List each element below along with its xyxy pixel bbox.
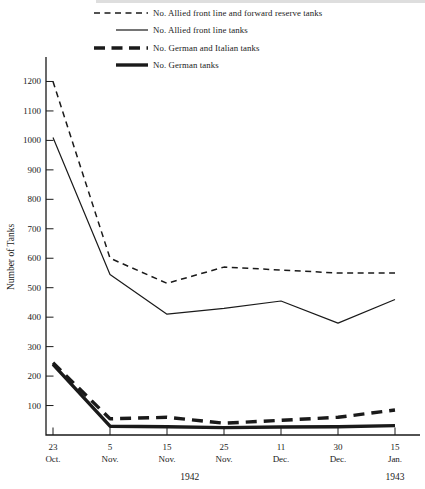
x-tick-month: Nov. — [215, 454, 232, 464]
x-tick-month: Nov. — [101, 454, 118, 464]
x-tick-day: 15 — [391, 442, 401, 452]
y-tick-label: 500 — [28, 283, 42, 293]
y-tick-label: 300 — [28, 342, 42, 352]
y-tick-label: 1200 — [23, 76, 42, 86]
y-tick-label: 100 — [28, 401, 42, 411]
series-line-2 — [53, 363, 395, 423]
y-tick-label: 600 — [28, 253, 42, 263]
year-label: 1942 — [180, 472, 199, 482]
y-tick-label: 1000 — [23, 135, 42, 145]
x-tick-day: 30 — [334, 442, 344, 452]
y-tick-label: 700 — [28, 224, 42, 234]
x-tick-month: Jan. — [388, 454, 402, 464]
y-tick-label: 900 — [28, 165, 42, 175]
series-line-0 — [53, 82, 395, 284]
x-tick-month: Nov. — [158, 454, 175, 464]
year-label: 1943 — [386, 472, 405, 482]
y-tick-label: 200 — [28, 371, 42, 381]
x-tick-month: Dec. — [273, 454, 290, 464]
y-tick-label: 800 — [28, 194, 42, 204]
x-tick-day: 15 — [163, 442, 173, 452]
series-line-1 — [53, 138, 395, 324]
x-tick-day: 11 — [277, 442, 286, 452]
x-tick-day: 5 — [108, 442, 113, 452]
chart-plot-area: 1002003004005006007008009001000110012002… — [0, 0, 425, 489]
y-tick-label: 400 — [28, 312, 42, 322]
x-tick-month: Oct. — [45, 454, 60, 464]
x-tick-day: 23 — [49, 442, 59, 452]
x-tick-month: Dec. — [330, 454, 347, 464]
axis-lines — [46, 57, 420, 435]
tank-strength-chart: No. Allied front line and forward reserv… — [0, 0, 425, 489]
x-tick-day: 25 — [220, 442, 230, 452]
y-tick-label: 1100 — [23, 106, 41, 116]
